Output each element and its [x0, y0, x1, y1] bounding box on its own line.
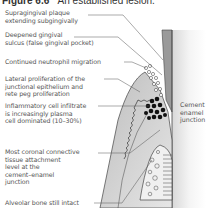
label-deepened-sulcus: Deepened gingival sulcus (false gingival… — [5, 31, 94, 46]
label-cement-enamel-junction: Cement enamel junction — [180, 101, 205, 124]
label-line: cell dominated (10–30%) — [5, 117, 86, 125]
label-line: Alveolar bone still intact — [5, 199, 79, 207]
label-line: Supragingival plaque — [5, 9, 78, 17]
label-supragingival-plaque: Supragingival plaque extending subgingiv… — [5, 9, 78, 24]
leader-neutrophil — [124, 62, 146, 68]
label-line: sulcus (false gingival pocket) — [5, 39, 94, 47]
label-line: Deepened gingival — [5, 31, 94, 39]
label-line: rete peg proliferation — [5, 90, 85, 98]
label-line: is increasingly plasma — [5, 110, 86, 118]
label-line: Inflammatory cell infiltrate — [5, 102, 86, 110]
label-inflammatory-infiltrate: Inflammatory cell infiltrate is increasi… — [5, 102, 86, 125]
leader-plaque — [88, 15, 163, 60]
label-line: junctional epithelium and — [5, 83, 85, 91]
label-neutrophil-migration: Continued neutrophil migration — [5, 58, 101, 66]
label-line: cement–enamel — [5, 171, 79, 179]
label-line: Continued neutrophil migration — [5, 58, 101, 66]
label-line: tissue attachment — [5, 156, 79, 164]
label-alveolar-bone: Alveolar bone still intact — [5, 199, 79, 207]
label-line: junction — [5, 178, 79, 186]
label-lateral-proliferation: Lateral proliferation of the junctional … — [5, 75, 85, 98]
label-line: extending subgingivally — [5, 17, 78, 25]
label-line: Most coronal connective — [5, 148, 79, 156]
label-line: Cement — [180, 101, 205, 109]
label-line: Lateral proliferation of the — [5, 75, 85, 83]
label-connective-attachment: Most coronal connective tissue attachmen… — [5, 148, 79, 186]
label-line: level at the — [5, 163, 79, 171]
label-line: junction — [180, 116, 205, 124]
label-line: enamel — [180, 109, 205, 117]
